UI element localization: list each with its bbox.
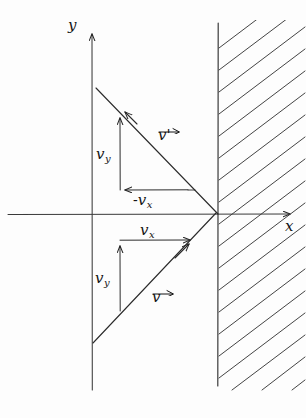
lower-vy-label: vy <box>95 270 110 288</box>
upper-vx-label: -vx <box>133 192 152 210</box>
diagram-canvas <box>0 0 306 418</box>
v-prime-overarrow-icon <box>158 126 184 134</box>
lower-vx-label: vx <box>140 222 155 240</box>
v-prime-arrowhead <box>125 112 137 124</box>
outgoing-vector-v-prime <box>96 88 218 214</box>
v-overarrow-icon <box>152 288 178 296</box>
wall-hatching <box>219 9 305 390</box>
v-label: v <box>152 288 160 306</box>
axis-lines <box>8 34 290 390</box>
v-prime-line <box>96 88 218 214</box>
v-arrowhead <box>175 244 189 258</box>
y-axis-label: y <box>68 17 76 33</box>
x-axis-label: x <box>285 218 293 234</box>
upper-vy-label: vy <box>96 146 111 164</box>
vector-reflection-diagram: y x vy -vx v' vx vy v <box>0 0 306 418</box>
v-prime-label: v' <box>158 126 171 144</box>
wall-group <box>218 9 305 390</box>
